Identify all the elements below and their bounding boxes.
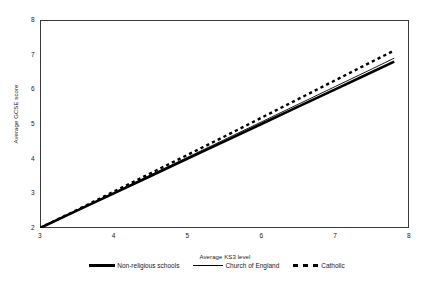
- chart-legend: Non-religious schools Church of England …: [0, 262, 434, 269]
- x-tick-label-8: 8: [407, 232, 411, 239]
- x-tick-label-3: 3: [38, 232, 42, 239]
- legend-swatch-solid-thick-icon: [89, 264, 115, 267]
- y-tick-label-7: 7: [31, 51, 35, 58]
- y-tick-label-8: 8: [31, 16, 35, 23]
- legend-label-catholic: Catholic: [321, 262, 344, 269]
- legend-label-church-of-england: Church of England: [225, 262, 279, 269]
- legend-item-church-of-england: Church of England: [193, 262, 279, 269]
- x-tick-label-4: 4: [112, 232, 116, 239]
- legend-item-catholic: Catholic: [293, 262, 344, 269]
- x-axis-title-container: Average KS3 level: [40, 245, 410, 263]
- x-tick-label-5: 5: [186, 232, 190, 239]
- legend-swatch-dashed-icon: [293, 264, 319, 267]
- y-tick-label-4: 4: [31, 155, 35, 162]
- y-tick-label-3: 3: [31, 189, 35, 196]
- series-line-catholic: [40, 51, 394, 228]
- y-tick-label-6: 6: [31, 85, 35, 92]
- y-tick-label-5: 5: [31, 120, 35, 127]
- chart-figure: Average GCSE score 2345678 345678 Averag…: [0, 0, 434, 287]
- x-tick-label-6: 6: [259, 232, 263, 239]
- y-tick-label-2: 2: [31, 224, 35, 231]
- x-tick-label-7: 7: [333, 232, 337, 239]
- legend-label-non-religious-schools: Non-religious schools: [117, 262, 179, 269]
- x-axis-title: Average KS3 level: [200, 254, 251, 260]
- y-axis-title: Average GCSE score: [13, 84, 19, 143]
- legend-item-non-religious-schools: Non-religious schools: [89, 262, 179, 269]
- y-axis-title-container: Average GCSE score: [8, 0, 24, 228]
- legend-swatch-solid-thin-icon: [193, 265, 223, 266]
- chart-lines: [40, 20, 409, 228]
